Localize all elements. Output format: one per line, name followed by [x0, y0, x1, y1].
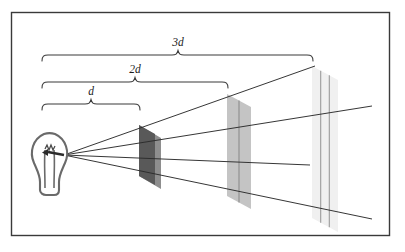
- label-3d: 3d: [171, 36, 184, 48]
- figure-root: d 2d 3d d 2d 3d: [0, 0, 405, 252]
- inverse-square-law-diagram: d 2d 3d: [0, 0, 405, 252]
- label-d: d: [88, 85, 94, 97]
- panel-1d-face: [139, 125, 155, 185]
- label-2d: 2d: [129, 63, 141, 75]
